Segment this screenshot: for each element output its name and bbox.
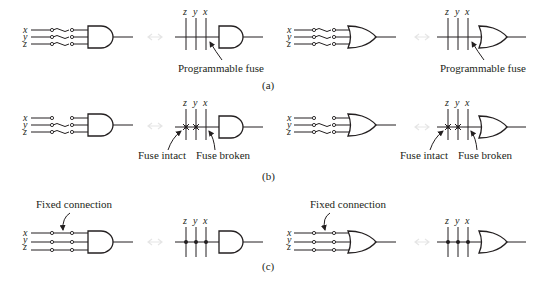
- fixed-connection-dot-icon: [194, 240, 198, 244]
- or-gate-icon: [348, 114, 376, 136]
- row-b-right-and-shorthand: z y x Fuse intact Fuse broken: [138, 97, 263, 161]
- and-gate-icon: [219, 116, 243, 138]
- input-label-x: x: [464, 97, 470, 108]
- programmable-fuse-label: Programmable fuse: [440, 62, 526, 74]
- fuse-icon: [315, 29, 331, 46]
- and-gate-icon: [219, 26, 243, 48]
- equivalence-arrow-icon: [415, 34, 429, 40]
- and-gate-icon: [88, 231, 113, 253]
- fuse-broken-label: Fuse broken: [196, 149, 251, 161]
- pointer-arrow: [471, 131, 477, 150]
- row-b: x y z z y x Fuse intact: [22, 97, 526, 183]
- row-b-left-and-circuit: x y z: [22, 112, 133, 137]
- input-label-y: y: [192, 97, 198, 108]
- and-gate-icon: [88, 114, 113, 136]
- row-a-left-and-circuit: x y z: [22, 24, 133, 49]
- row-c-left-or-circuit: Fixed connection x y z: [286, 198, 396, 253]
- input-label-z: z: [444, 97, 449, 108]
- equivalence-arrow-icon: [148, 34, 162, 40]
- input-label-y: y: [192, 6, 198, 17]
- fuse-icon: [53, 29, 69, 46]
- fixed-connection-dot-icon: [446, 240, 450, 244]
- pointer-arrow: [168, 131, 181, 150]
- caption-a: (a): [262, 79, 275, 92]
- programmable-fuse-label: Programmable fuse: [178, 62, 264, 74]
- pointer-arrow: [209, 131, 215, 150]
- fixed-connection-label: Fixed connection: [310, 198, 387, 210]
- input-label-x: x: [464, 215, 470, 226]
- pld-fuse-diagram: x y z z y x Programmable fuse x: [0, 0, 545, 294]
- input-label-z: z: [182, 215, 187, 226]
- row-c-right-or-shorthand: z y x: [437, 215, 526, 257]
- input-label-y: y: [454, 97, 460, 108]
- row-c-left-and-circuit: Fixed connection x y z: [22, 198, 133, 253]
- pointer-arrow: [324, 213, 330, 230]
- equivalence-arrow-icon: [148, 239, 162, 245]
- input-label-z: z: [22, 241, 27, 252]
- row-c-right-and-shorthand: z y x: [175, 215, 263, 257]
- and-gate-icon: [88, 26, 113, 48]
- input-label-x: x: [202, 97, 208, 108]
- row-b-left-or-circuit: x y z: [286, 112, 396, 137]
- row-a-left-or-circuit: x y z: [286, 24, 396, 49]
- input-label-y: y: [454, 6, 460, 17]
- input-label-x: x: [202, 6, 208, 17]
- equivalence-arrow-icon: [415, 239, 429, 245]
- or-gate-icon: [479, 231, 507, 253]
- fuse-intact-label: Fuse intact: [400, 149, 448, 161]
- fixed-connection-dot-icon: [184, 240, 188, 244]
- or-gate-icon: [348, 231, 376, 253]
- and-gate-icon: [219, 231, 243, 253]
- row-a: x y z z y x Programmable fuse x: [22, 6, 526, 92]
- pointer-arrow: [430, 131, 443, 150]
- fuse-broken-label: Fuse broken: [458, 149, 513, 161]
- fuse-icon: [53, 124, 69, 134]
- row-a-right-and-shorthand: z y x Programmable fuse: [175, 6, 264, 74]
- input-label-z: z: [286, 126, 291, 137]
- pointer-arrow: [63, 213, 70, 230]
- or-gate-icon: [479, 26, 507, 48]
- fixed-connection-label: Fixed connection: [36, 198, 113, 210]
- input-label-z: z: [444, 6, 449, 17]
- input-label-y: y: [192, 215, 198, 226]
- row-c: Fixed connection x y z z y x Fixed: [22, 198, 526, 273]
- caption-c: (c): [262, 260, 275, 273]
- caption-b: (b): [262, 170, 275, 183]
- input-label-z: z: [22, 38, 27, 49]
- row-a-right-or-shorthand: z y x Programmable fuse: [437, 6, 526, 74]
- input-label-z: z: [182, 97, 187, 108]
- input-label-z: z: [286, 241, 291, 252]
- row-b-right-or-shorthand: z y x Fuse intact Fuse broken: [400, 97, 526, 161]
- input-label-x: x: [202, 215, 208, 226]
- fuse-icon: [315, 124, 331, 134]
- input-label-z: z: [182, 6, 187, 17]
- equivalence-arrow-icon: [415, 124, 429, 130]
- input-label-z: z: [286, 38, 291, 49]
- input-label-y: y: [454, 215, 460, 226]
- fixed-connection-dot-icon: [466, 240, 470, 244]
- or-gate-icon: [348, 26, 376, 48]
- fixed-connection-dot-icon: [456, 240, 460, 244]
- input-label-z: z: [444, 215, 449, 226]
- equivalence-arrow-icon: [148, 123, 162, 129]
- input-label-z: z: [22, 126, 27, 137]
- or-gate-icon: [479, 116, 507, 138]
- fixed-connection-dot-icon: [204, 240, 208, 244]
- input-label-x: x: [464, 6, 470, 17]
- fuse-intact-label: Fuse intact: [138, 149, 186, 161]
